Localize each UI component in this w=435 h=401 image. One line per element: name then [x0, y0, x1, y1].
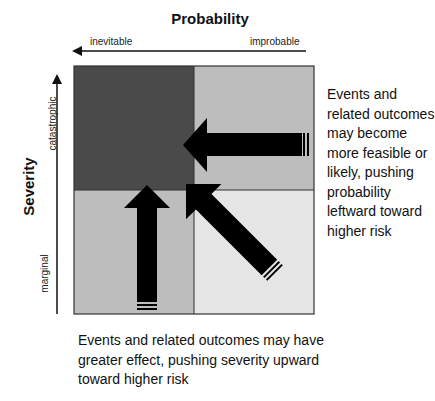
quadrant-bottom-left [74, 190, 194, 314]
probability-annotation: Events and related outcomes may become m… [327, 85, 435, 241]
quadrant-top-right [194, 66, 314, 190]
quadrant-top-left [74, 66, 194, 190]
severity-axis-arrow-icon [52, 74, 62, 314]
severity-annotation: Events and related outcomes may have gre… [78, 331, 348, 390]
probability-axis-arrow-icon [72, 46, 306, 56]
